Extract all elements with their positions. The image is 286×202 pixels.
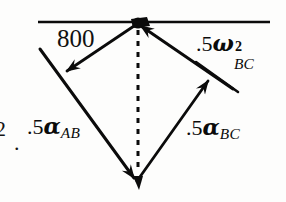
apex-blob-extra — [131, 17, 150, 28]
omega-coefficient: .5 — [196, 31, 213, 56]
acceleration-vector-diagram: 800 .5ω2BC .5αAB .5αBC 2 . — [0, 0, 286, 202]
label-magnitude-800: 800 — [57, 26, 95, 51]
alpha-bc-coefficient: .5 — [186, 115, 203, 140]
label-margin-period: . — [14, 132, 20, 154]
alpha-bc-symbol: α — [203, 114, 220, 140]
label-alpha-ab: .5αAB — [27, 115, 80, 141]
alpha-ab-subscript: AB — [61, 124, 80, 141]
label-alpha-bc: .5αBC — [186, 116, 240, 142]
omega-subscript: BC — [234, 56, 254, 71]
omega-symbol: ω — [213, 30, 234, 56]
label-margin-digit-two: 2 — [0, 118, 6, 140]
omega-superscript: 2 — [235, 39, 242, 53]
alpha-ab-coefficient: .5 — [27, 114, 44, 139]
vector-canvas — [0, 0, 286, 202]
bottom-vertex-node — [133, 176, 143, 190]
alpha-ab-symbol: α — [44, 113, 61, 139]
alpha-bc-subscript: BC — [220, 125, 240, 142]
label-omega-bc: .5ω2BC — [196, 32, 234, 55]
